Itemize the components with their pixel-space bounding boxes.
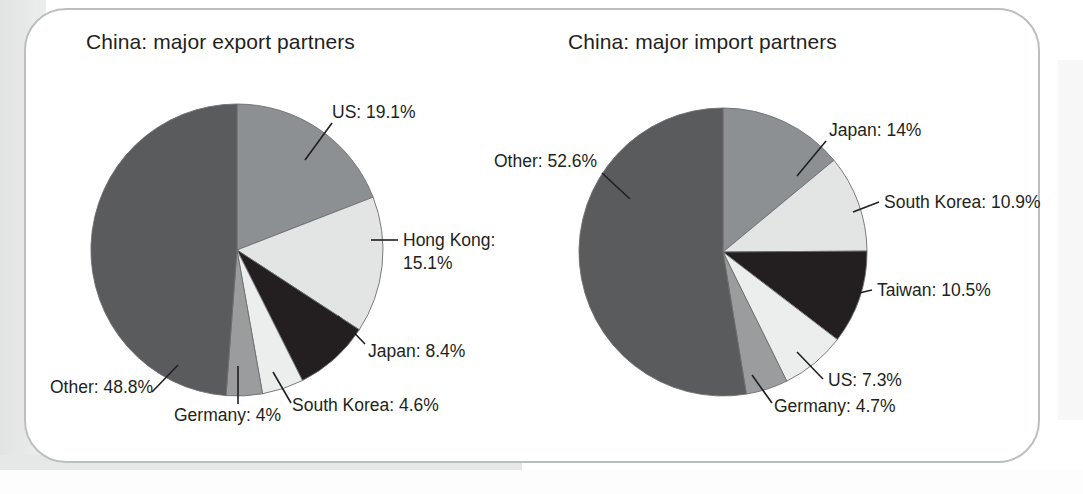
export-label-other: Other: 48.8% <box>50 377 153 397</box>
import-pie: Japan: 14% South Korea: 10.9% Taiwan: 10… <box>494 108 1041 416</box>
export-slice-other[interactable] <box>91 104 237 396</box>
import-label-us: US: 7.3% <box>828 370 902 390</box>
export-pie: US: 19.1% Hong Kong: 15.1% Japan: 8.4% S… <box>50 102 495 425</box>
export-label-hong-kong-line1: Hong Kong: <box>403 230 495 250</box>
import-slice-other[interactable] <box>579 108 746 396</box>
export-label-hong-kong-line2: 15.1% <box>403 253 453 273</box>
import-label-taiwan: Taiwan: 10.5% <box>877 280 991 300</box>
export-label-us: US: 19.1% <box>332 102 416 122</box>
figure-page: China: major export partners China: majo… <box>0 0 1083 494</box>
import-label-other: Other: 52.6% <box>494 151 597 171</box>
import-label-south-korea: South Korea: 10.9% <box>884 192 1041 212</box>
export-label-south-korea: South Korea: 4.6% <box>292 395 439 415</box>
export-label-japan: Japan: 8.4% <box>368 341 465 361</box>
import-label-germany: Germany: 4.7% <box>774 396 896 416</box>
import-label-japan: Japan: 14% <box>829 120 921 140</box>
export-label-germany: Germany: 4% <box>174 405 281 425</box>
pie-charts-svg: US: 19.1% Hong Kong: 15.1% Japan: 8.4% S… <box>0 0 1083 494</box>
